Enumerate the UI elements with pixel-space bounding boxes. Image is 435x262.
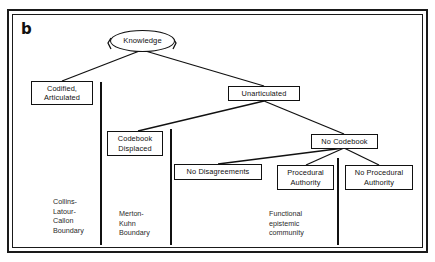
node-no-procedural-authority-label: No Procedural Authority: [355, 168, 404, 186]
figure-panel: b Knowledge Codified, Arti: [0, 0, 435, 262]
node-procedural-authority[interactable]: Procedural Authority: [277, 165, 334, 190]
panel-letter: b: [21, 22, 32, 37]
node-no-disagreements-label: No Disagreements: [187, 167, 250, 176]
node-no-procedural-authority[interactable]: No Procedural Authority: [345, 165, 413, 190]
node-codified-articulated[interactable]: Codified, Articulated: [31, 81, 93, 105]
node-no-disagreements[interactable]: No Disagreements: [174, 164, 262, 180]
node-no-codebook[interactable]: No Codebook: [311, 134, 378, 149]
node-unarticulated-label: Unarticulated: [242, 89, 287, 98]
boundary-line-collins-latour-callon: [100, 82, 102, 245]
boundary-label-collins-latour-callon: Collins- Latour- Callon Boundary: [53, 197, 99, 236]
node-no-codebook-label: No Codebook: [321, 137, 367, 146]
node-codebook-displaced-label: Codebook Displaced: [118, 134, 153, 152]
node-knowledge-label: Knowledge: [123, 36, 161, 45]
node-procedural-authority-label: Procedural Authority: [287, 168, 324, 186]
boundary-label-functional-epistemic-community: Functional epistemic community: [269, 209, 335, 238]
node-codified-articulated-label: Codified, Articulated: [44, 84, 80, 102]
boundary-line-merton-kuhn: [170, 129, 172, 245]
node-codebook-displaced[interactable]: Codebook Displaced: [107, 131, 163, 156]
boundary-line-functional-epistemic: [337, 158, 339, 245]
node-knowledge[interactable]: Knowledge: [110, 30, 175, 52]
node-unarticulated[interactable]: Unarticulated: [228, 86, 300, 101]
boundary-label-merton-kuhn: Merton- Kuhn Boundary: [119, 209, 169, 238]
